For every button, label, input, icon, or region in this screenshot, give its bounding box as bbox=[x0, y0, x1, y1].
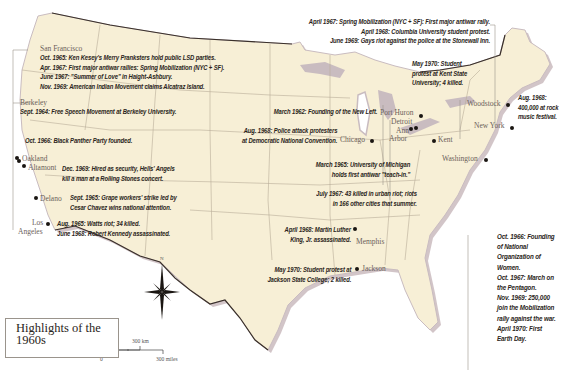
map-title-line2: 1960s bbox=[16, 334, 108, 346]
annotation-line: Oct. 1965: Ken Kesey's Merry Pranksters … bbox=[40, 53, 224, 63]
annotation-line: April 1970: First bbox=[497, 324, 556, 334]
annotation-line: Sept. 1965: Grape workers' strike led by bbox=[70, 193, 177, 203]
scale-km-label: 300 km bbox=[132, 338, 149, 344]
annotation-line: Sept. 1964: Free Speech Movement at Berk… bbox=[20, 107, 176, 117]
city-dot-los-angeles bbox=[46, 222, 50, 226]
annotation-line: at Democratic National Convention. bbox=[242, 136, 337, 146]
city-dot-chicago bbox=[370, 139, 374, 143]
compass-north-label: N bbox=[160, 256, 164, 261]
annotation-port-huron: March 1962: Founding of the New Left. bbox=[273, 107, 377, 117]
annotation-line: Dec. 1969: Hired as security, Hells' Ang… bbox=[62, 164, 175, 174]
city-dot-detroit bbox=[414, 126, 418, 130]
annotation-line: in 166 other cities that summer. bbox=[316, 199, 417, 209]
city-label-detroit: Detroit bbox=[391, 118, 412, 126]
city-label-port-huron: Port Huron bbox=[380, 109, 414, 117]
city-dot-jackson bbox=[355, 267, 359, 271]
annotation-line: the Pentagon. bbox=[497, 283, 556, 293]
annotation-line: Aug. 1968: Police attack protesters bbox=[242, 126, 337, 136]
city-dot-woodstock bbox=[506, 103, 510, 107]
city-label-new-york: New York bbox=[474, 122, 504, 130]
annotation-line: March 1965: University of Michigan bbox=[316, 160, 410, 170]
scale-mi-label: 300 miles bbox=[156, 356, 178, 362]
annotation-line: protest at Kent State bbox=[412, 69, 467, 79]
city-label-oakland: Oakland bbox=[22, 155, 47, 163]
annotation-line: Oct. 1966: Founding bbox=[497, 232, 556, 242]
city-dot-oakland bbox=[17, 159, 21, 163]
annotation-line: May 1970: Student bbox=[412, 59, 467, 69]
annotation-line: April 1968: Columbia University student … bbox=[309, 27, 490, 37]
annotation-line: rally against the war. bbox=[497, 314, 556, 324]
city-dot-washington bbox=[484, 158, 488, 162]
annotation-jackson: May 1970: Student protest at Jackson Sta… bbox=[267, 265, 351, 284]
annotation-chicago: Aug. 1968: Police attack protesters at D… bbox=[242, 126, 337, 145]
annotation-san-francisco: Oct. 1965: Ken Kesey's Merry Pranksters … bbox=[40, 53, 224, 91]
annotation-line: Oct. 1967: March on bbox=[497, 273, 556, 283]
annotation-new-york: April 1967: Spring Mobilization (NYC + S… bbox=[309, 17, 490, 46]
city-dot-ann-arbor bbox=[409, 127, 413, 131]
annotation-line: Cesar Chavez wins national attention. bbox=[70, 203, 177, 213]
annotation-line: June 1967: "Summer of Love" in Haight-As… bbox=[40, 72, 224, 82]
city-label-altamont: Altamont bbox=[28, 164, 56, 172]
annotation-line: April 1968: Martin Luther bbox=[285, 225, 351, 235]
annotation-line: 400,000 at rock bbox=[518, 103, 558, 113]
annotation-washington: Oct. 1966: Founding of National Organiza… bbox=[497, 232, 556, 344]
annotation-line: Women. bbox=[497, 263, 556, 273]
annotation-line: June 1968: Robert Kennedy assassinated. bbox=[57, 229, 170, 239]
annotation-altamont: Dec. 1969: Hired as security, Hells' Ang… bbox=[62, 164, 175, 183]
annotation-line: holds first antiwar "teach-in." bbox=[316, 170, 410, 180]
annotation-line: April 1967: Spring Mobilization (NYC + S… bbox=[309, 17, 490, 27]
city-label-los-angeles-2: Angeles bbox=[18, 228, 43, 236]
annotation-line: Aug. 1968: bbox=[518, 93, 558, 103]
annotation-berkeley: Sept. 1964: Free Speech Movement at Berk… bbox=[20, 107, 176, 117]
annotation-line: Aug. 1965: Watts riot; 34 killed. bbox=[57, 219, 170, 229]
annotation-line: of National bbox=[497, 242, 556, 252]
annotation-line: Jackson State College; 2 killed. bbox=[267, 275, 351, 285]
city-label-woodstock: Woodstock bbox=[467, 100, 501, 108]
annotation-line: Nov. 1969: American Indian Movement clai… bbox=[40, 82, 224, 92]
annotation-woodstock: Aug. 1968: 400,000 at rock music festiva… bbox=[518, 93, 558, 122]
city-label-kent: Kent bbox=[438, 136, 453, 144]
annotation-oakland: Oct. 1966: Black Panther Party founded. bbox=[25, 136, 132, 146]
city-label-san-francisco: San Francisco bbox=[40, 45, 82, 53]
annotation-ann-arbor: March 1965: University of Michigan holds… bbox=[316, 160, 410, 179]
map-canvas: N 0 300 km 0 300 miles Highlights of the… bbox=[0, 0, 577, 375]
city-dot-port-huron bbox=[419, 114, 423, 118]
annotation-line: Organization of bbox=[497, 252, 556, 262]
annotation-line: Oct. 1966: Black Panther Party founded. bbox=[25, 136, 132, 146]
city-dot-delano bbox=[34, 196, 38, 200]
annotation-memphis: April 1968: Martin Luther King, Jr. assa… bbox=[285, 225, 351, 244]
annotation-line: kill a man at a Rolling Stones concert. bbox=[62, 174, 175, 184]
city-label-jackson: Jackson bbox=[362, 265, 386, 273]
map-title-box: Highlights of the 1960s bbox=[5, 318, 119, 358]
annotation-los-angeles: Aug. 1965: Watts riot; 34 killed. June 1… bbox=[57, 219, 170, 238]
annotation-kent: May 1970: Student protest at Kent State … bbox=[412, 59, 467, 88]
city-label-ann-arbor-2: Arbor bbox=[389, 135, 407, 143]
annotation-line: music festival. bbox=[518, 112, 558, 122]
annotation-line: July 1967: 43 killed in urban riot; riot… bbox=[316, 189, 417, 199]
city-label-los-angeles-1: Los bbox=[32, 219, 43, 227]
annotation-line: University; 4 killed. bbox=[412, 78, 467, 88]
annotation-line: March 1962: Founding of the New Left. bbox=[273, 107, 377, 117]
city-label-memphis: Memphis bbox=[356, 238, 384, 246]
annotation-line: May 1970: Student protest at bbox=[267, 265, 351, 275]
annotation-line: join the Mobilization bbox=[497, 303, 556, 313]
city-label-delano: Delano bbox=[40, 195, 62, 203]
city-dot-new-york bbox=[510, 126, 514, 130]
city-label-chicago: Chicago bbox=[340, 136, 365, 144]
annotation-line: King, Jr. assassinated. bbox=[285, 235, 351, 245]
annotation-line: Earth Day. bbox=[497, 334, 556, 344]
city-label-washington: Washington bbox=[442, 155, 478, 163]
city-dot-kent bbox=[432, 139, 436, 143]
annotation-delano: Sept. 1965: Grape workers' strike led by… bbox=[70, 193, 177, 212]
annotation-line: Nov. 1969: 250,000 bbox=[497, 293, 556, 303]
annotation-line: June 1969: Gays riot against the police … bbox=[309, 36, 490, 46]
city-label-berkeley: Berkeley bbox=[20, 99, 47, 107]
annotation-line: Apr. 1967: First major antiwar rallies: … bbox=[40, 63, 224, 73]
annotation-detroit: July 1967: 43 killed in urban riot; riot… bbox=[316, 189, 417, 208]
city-dot-memphis bbox=[353, 227, 357, 231]
city-dot-altamont bbox=[22, 164, 26, 168]
